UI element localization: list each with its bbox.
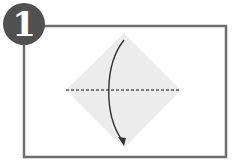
step-number-badge: 1 [3,3,45,45]
origami-step-diagram: 1 [0,0,232,160]
